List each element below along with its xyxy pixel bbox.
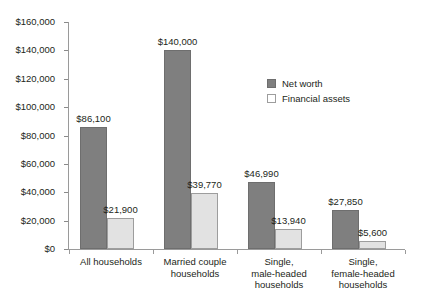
bar-chart: $0$20,000$40,000$60,000$80,000$100,000$1…: [0, 0, 424, 304]
y-axis-tick-label: $0: [44, 244, 55, 254]
bar-value-label: $27,850: [325, 197, 367, 207]
y-axis-tick-mark: [64, 136, 68, 137]
bar-group: $46,990$13,940: [237, 22, 321, 249]
bar-value-label: $5,600: [352, 228, 394, 238]
y-axis-tick-mark: [64, 164, 68, 165]
bar-financial-assets[interactable]: [275, 229, 302, 249]
y-axis-tick-mark: [64, 221, 68, 222]
x-axis-tick-mark: [237, 250, 238, 254]
bar-value-label: $39,770: [184, 180, 226, 190]
bar-group: $27,850$5,600: [321, 22, 405, 249]
x-axis-tick-mark: [69, 250, 70, 254]
bar-value-label: $86,100: [73, 114, 115, 124]
y-axis-tick-mark: [64, 249, 68, 250]
legend-label: Net worth: [282, 79, 323, 89]
y-axis-tick-mark: [64, 22, 68, 23]
legend-label: Financial assets: [282, 94, 350, 104]
bar-financial-assets[interactable]: [359, 241, 386, 249]
y-axis-tick-mark: [64, 79, 68, 80]
chart-legend: Net worthFinancial assets: [267, 77, 350, 107]
y-axis-tick-label: $20,000: [21, 216, 55, 226]
y-axis-tick-mark: [64, 192, 68, 193]
y-axis-tick-label: $40,000: [21, 187, 55, 197]
bar-net-worth[interactable]: [164, 50, 191, 249]
bar-value-label: $21,900: [100, 205, 142, 215]
legend-swatch-financial-assets-icon: [267, 94, 276, 103]
y-axis-tick-mark: [64, 107, 68, 108]
plot-area: $86,100$21,900$140,000$39,770$46,990$13,…: [69, 22, 405, 249]
bar-value-label: $140,000: [157, 37, 199, 47]
y-axis-tick-label: $100,000: [15, 102, 55, 112]
y-axis-tick-label: $60,000: [21, 159, 55, 169]
y-axis-tick-label: $120,000: [15, 74, 55, 84]
bar-net-worth[interactable]: [80, 127, 107, 249]
y-axis-tick-label: $80,000: [21, 131, 55, 141]
x-axis-tick-mark: [405, 250, 406, 254]
x-axis-tick-mark: [153, 250, 154, 254]
bar-value-label: $13,940: [268, 216, 310, 226]
y-axis-tick-mark: [64, 50, 68, 51]
bar-value-label: $46,990: [241, 169, 283, 179]
legend-swatch-net-worth-icon: [267, 79, 276, 88]
bar-financial-assets[interactable]: [107, 218, 134, 249]
legend-item[interactable]: Financial assets: [267, 92, 350, 105]
x-axis-category-label: Single, female-headed households: [308, 256, 418, 291]
legend-item[interactable]: Net worth: [267, 77, 350, 90]
bar-group: $86,100$21,900: [69, 22, 153, 249]
bar-financial-assets[interactable]: [191, 193, 218, 249]
bar-group: $140,000$39,770: [153, 22, 237, 249]
x-axis-tick-mark: [321, 250, 322, 254]
y-axis-tick-label: $140,000: [15, 45, 55, 55]
y-axis: $0$20,000$40,000$60,000$80,000$100,000$1…: [0, 0, 63, 304]
y-axis-tick-label: $160,000: [15, 17, 55, 27]
